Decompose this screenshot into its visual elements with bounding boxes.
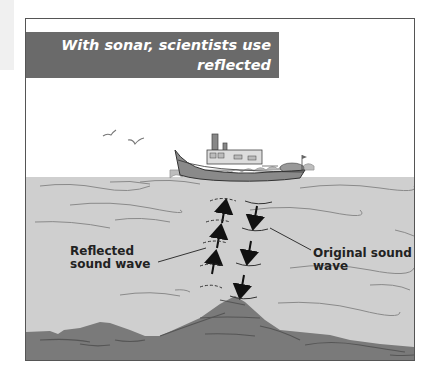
original-label-line-2: wave	[313, 260, 412, 273]
reflected-sound-wave-label: Reflected sound wave	[70, 245, 150, 271]
caption-line-2: sound to map the ocean floor.	[26, 75, 271, 95]
seagulls	[103, 130, 144, 144]
caption-banner: With sonar, scientists use reflected sou…	[26, 32, 279, 78]
original-sound-wave-label: Original sound wave	[313, 247, 412, 273]
sonar-boat	[175, 134, 307, 181]
caption-line-1: With sonar, scientists use reflected	[26, 35, 271, 75]
reflected-label-line-2: sound wave	[70, 258, 150, 271]
